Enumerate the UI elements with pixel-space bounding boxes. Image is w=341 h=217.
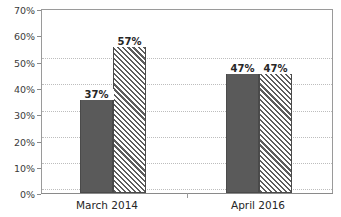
x-category-label-march-2014: March 2014 (62, 199, 152, 211)
y-tick-label-30: 30% (0, 110, 35, 121)
data-label-april-2016-solid: 47% (225, 63, 260, 74)
gridline-60 (42, 58, 332, 59)
bar-april-2016-hatched[interactable] (259, 70, 292, 193)
x-category-label-april-2016: April 2016 (213, 199, 303, 211)
y-tick-label-0: 0% (0, 189, 35, 200)
y-tick-label-40: 40% (0, 83, 35, 94)
data-label-march-2014-solid: 37% (79, 89, 114, 100)
y-tick-label-10: 10% (0, 162, 35, 173)
y-tick-label-70: 70% (0, 5, 35, 16)
y-tick-label-60: 60% (0, 31, 35, 42)
cropped-title-text (48, 0, 178, 4)
bar-april-2016-solid[interactable] (226, 70, 259, 193)
x-tick-separator (187, 193, 188, 198)
y-tick-label-20: 20% (0, 136, 35, 147)
bar-chart: 70% 60% 50% 40% 30% 20% 10% 0% 37% 57% 4… (0, 0, 341, 217)
data-label-march-2014-hatched: 57% (112, 36, 147, 47)
data-label-april-2016-hatched: 47% (258, 63, 293, 74)
plot-area (41, 9, 333, 194)
bar-march-2014-hatched[interactable] (113, 44, 146, 193)
bar-march-2014-solid[interactable] (80, 96, 113, 193)
y-tick-label-50: 50% (0, 57, 35, 68)
y-tick-mark-0 (37, 194, 41, 195)
